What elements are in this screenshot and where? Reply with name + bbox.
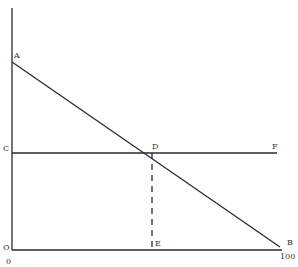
- diagram-canvas: A C D F O E B 0 100: [0, 0, 298, 267]
- label-c: C: [3, 144, 9, 153]
- label-a: A: [13, 51, 20, 60]
- line-ab: [12, 62, 280, 247]
- label-o: O: [3, 243, 10, 252]
- label-f: F: [272, 142, 278, 151]
- label-d: D: [152, 142, 158, 151]
- tick-x-start: 0: [6, 257, 11, 266]
- label-b: B: [287, 238, 293, 247]
- label-e: E: [155, 239, 161, 248]
- tick-x-end: 100: [280, 252, 295, 261]
